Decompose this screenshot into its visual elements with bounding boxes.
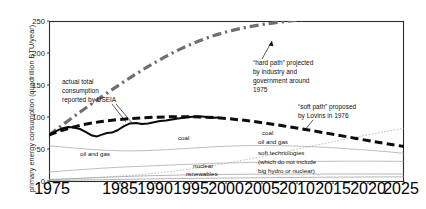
x-tick-1975: 1975 (34, 180, 70, 197)
annotation-hard-line1: “hard path” projected (253, 59, 314, 67)
annotation-hard-line2: by industry and (253, 68, 297, 76)
annotation-softtech-line1: soft technologies (258, 149, 304, 156)
annotation-soft-line2: by Lovins in 1976 (298, 112, 349, 120)
annotation-softtech-line3: big hydro or nuclear) (258, 167, 315, 174)
annotation-softtech-line2: (which do not include (258, 158, 317, 165)
annotation-actual-leader-2 (116, 104, 133, 124)
label-oil-and-gas-right: oil and gas (258, 138, 288, 145)
x-tick-2025: 2025 (383, 180, 419, 197)
x-axis-ticks: 1975 1985 1990 1995 2000 2005 2010 2015 … (34, 180, 419, 197)
annotation-soft-path: “soft path” proposed by Lovins in 1976 (298, 103, 357, 131)
x-tick-1990: 1990 (137, 180, 173, 197)
annotation-actual-consumption: actual total consumption reported by USE… (62, 78, 133, 124)
series-soft-path (49, 117, 404, 147)
label-nuclear: nuclear (193, 162, 213, 169)
annotation-hard-arrowhead (269, 41, 274, 46)
label-coal-right: coal (262, 129, 273, 136)
y-tick-marks (47, 21, 49, 181)
chart-canvas: 250 200 150 100 50 0 (0, 0, 426, 209)
annotation-actual-line2: consumption (62, 87, 99, 95)
y-tick-50: 50 (37, 145, 45, 154)
y-axis-title: primary energy consumption (quadrillion … (27, 14, 36, 204)
x-tick-1985: 1985 (102, 180, 138, 197)
series-hard-path (49, 15, 404, 135)
x-tick-1995: 1995 (173, 180, 209, 197)
energy-paths-chart: primary energy consumption (quadrillion … (0, 0, 426, 209)
x-tick-2015: 2015 (315, 180, 351, 197)
annotation-soft-line1: “soft path” proposed (298, 103, 357, 111)
annotation-hard-line3: government around (253, 77, 310, 85)
annotation-hard-line4: 1975 (253, 86, 268, 93)
label-coal-left: coal (178, 134, 189, 141)
label-oil-and-gas-left: oil and gas (80, 150, 110, 157)
label-renewables: renewables (186, 170, 218, 177)
x-tick-2000: 2000 (208, 180, 244, 197)
annotation-soft-technologies: soft technologies (which do not include … (258, 149, 317, 174)
x-tick-2010: 2010 (279, 180, 315, 197)
annotation-hard-path: “hard path” projected by industry and go… (253, 41, 314, 93)
series-coal (49, 161, 404, 172)
x-tick-2020: 2020 (350, 180, 386, 197)
annotation-actual-line3: reported by USEIA (62, 96, 117, 104)
x-tick-2005: 2005 (244, 180, 280, 197)
annotation-actual-line1: actual total (62, 78, 94, 85)
